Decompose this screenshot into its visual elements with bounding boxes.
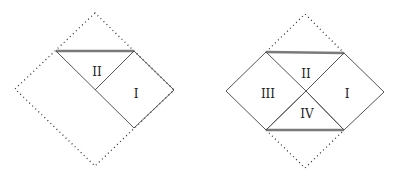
left-region-i-upper-edge bbox=[134, 51, 174, 90]
right-future-singularity bbox=[266, 52, 344, 53]
right-bottom-dotted-boundary bbox=[266, 130, 344, 168]
right-top-dotted-boundary bbox=[266, 14, 344, 53]
left-region-label-ii: II bbox=[92, 65, 102, 79]
right-region-label-iv: IV bbox=[300, 107, 314, 121]
right-region-label-iii: III bbox=[261, 87, 275, 101]
left-region-i-lower-edge bbox=[134, 90, 174, 128]
right-region-label-ii: II bbox=[301, 67, 311, 81]
left-penrose-diagram: II I bbox=[15, 13, 174, 166]
right-region-label-i: I bbox=[345, 87, 350, 101]
left-region-label-i: I bbox=[134, 87, 139, 101]
penrose-diagrams-canvas: II I II III I IV bbox=[0, 0, 396, 176]
right-penrose-diagram: II III I IV bbox=[226, 14, 384, 168]
